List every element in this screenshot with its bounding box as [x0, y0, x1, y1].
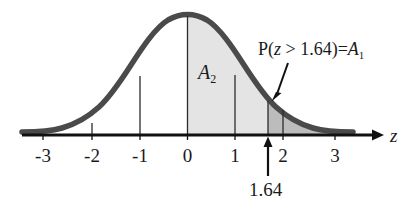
- pointer-value-label-164: 1.64: [249, 180, 282, 199]
- axis-tick-label-neg1: -1: [123, 146, 157, 165]
- tail-probability-label: P(z > 1.64)=A1: [258, 40, 364, 58]
- tail-probability-prefix: P(: [258, 39, 274, 59]
- axis-tick-label-one: 1: [218, 146, 252, 165]
- axis-name-z: z: [390, 126, 397, 145]
- area-label-a2-subscript: 2: [210, 72, 216, 86]
- axis-arrowhead-icon: [372, 130, 384, 141]
- normal-curve-figure: -3 -2 -1 0 1 2 3 z A2 P(z > 1.64)=A1 1.6…: [0, 0, 413, 216]
- axis-tick-label-two: 2: [266, 146, 300, 165]
- normal-curve-plot: [0, 0, 413, 216]
- area-label-a2: A2: [198, 62, 216, 82]
- shaded-region-a1-tail: [268, 10, 363, 136]
- callout-arrow-icon: [272, 63, 289, 102]
- tail-probability-area: A: [348, 39, 359, 59]
- axis-tick-label-neg2: -2: [75, 146, 109, 165]
- axis-tick-label-neg3: -3: [26, 146, 60, 165]
- tail-probability-subscript: 1: [359, 49, 365, 61]
- tail-probability-variable: z: [274, 39, 281, 59]
- tail-probability-rest: > 1.64)=: [281, 39, 348, 59]
- axis-tick-label-zero: 0: [171, 146, 205, 165]
- axis-tick-label-three: 3: [318, 146, 352, 165]
- area-label-a2-letter: A: [198, 61, 210, 83]
